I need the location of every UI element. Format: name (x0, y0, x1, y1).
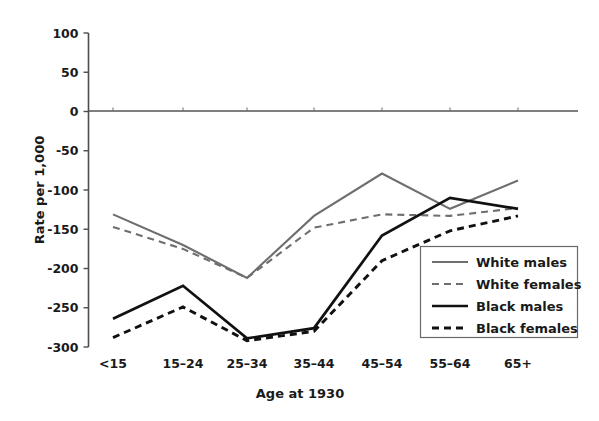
legend-label-black-females: Black females (476, 321, 578, 336)
y-tick-label: -300 (47, 340, 79, 355)
y-tick-label: -100 (47, 183, 79, 198)
x-tick-label: 55–64 (429, 356, 470, 371)
y-tick-label: -200 (47, 261, 79, 276)
x-axis-labels: <1515–2425–3435–4445–5455–6465+ (99, 356, 532, 371)
y-tick-label: -150 (47, 222, 79, 237)
y-tick-label: 100 (52, 26, 78, 41)
chart-container: 100500-50-100-150-200-250-300 <1515–2425… (0, 0, 599, 421)
x-tick-label: <15 (99, 356, 127, 371)
y-tick-label: -50 (56, 143, 79, 158)
legend-label-white-females: White females (476, 277, 582, 292)
y-tick-label: -250 (47, 300, 79, 315)
x-tick-label: 45–54 (361, 356, 402, 371)
legend-label-black-males: Black males (476, 299, 564, 314)
y-axis-ticks: 100500-50-100-150-200-250-300 (47, 26, 88, 355)
line-chart: 100500-50-100-150-200-250-300 <1515–2425… (0, 0, 599, 421)
chart-legend: White males White females Black males Bl… (421, 247, 582, 338)
x-tick-label: 65+ (504, 356, 532, 371)
y-tick-label: 50 (61, 65, 79, 80)
legend-label-white-males: White males (476, 255, 567, 270)
x-tick-label: 25–34 (226, 356, 267, 371)
x-tick-label: 35–44 (293, 356, 334, 371)
x-tick-label: 15–24 (162, 356, 203, 371)
y-axis-title: Rate per 1,000 (32, 136, 47, 245)
y-tick-label: 0 (70, 104, 79, 119)
x-axis-title: Age at 1930 (256, 386, 344, 401)
